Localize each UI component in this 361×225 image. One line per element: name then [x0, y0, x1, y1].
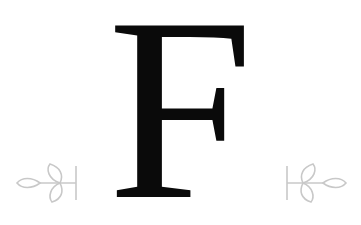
leaf-sprig-icon — [283, 163, 349, 203]
leaf-sprig-icon — [14, 163, 80, 203]
